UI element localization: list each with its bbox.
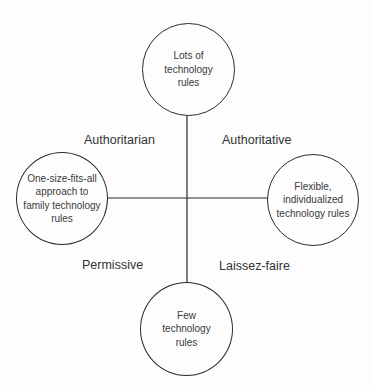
axis-node-label: Flexible, individualized technology rule… [277, 180, 350, 221]
axis-node-label: One-size-fits-all approach to family tec… [23, 172, 100, 226]
quadrant-label-permissive: Permissive [82, 258, 143, 272]
axis-node-lots-of-rules: Lots of technology rules [142, 23, 235, 116]
parenting-style-quadrant-diagram: Lots of technology rules One-size-fits-a… [0, 0, 373, 391]
axis-node-few-rules: Few technology rules [140, 282, 233, 376]
axis-node-flexible-rules: Flexible, individualized technology rule… [267, 154, 359, 246]
axis-node-label: Lots of technology rules [164, 49, 212, 90]
axis-node-label: Few technology rules [162, 309, 210, 350]
quadrant-label-authoritarian: Authoritarian [84, 133, 155, 147]
quadrant-label-laissez-faire: Laissez-faire [219, 259, 290, 273]
axis-node-one-size-fits-all: One-size-fits-all approach to family tec… [16, 152, 108, 245]
quadrant-label-authoritative: Authoritative [222, 133, 291, 147]
